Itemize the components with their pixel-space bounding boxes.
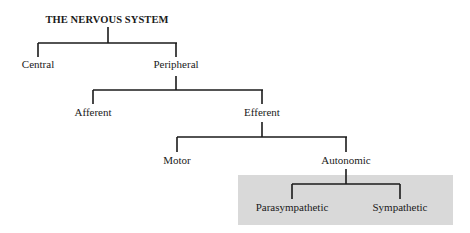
node-autonomic: Autonomic bbox=[321, 154, 371, 166]
node-efferent: Efferent bbox=[244, 106, 280, 118]
node-motor: Motor bbox=[163, 154, 191, 166]
node-parasympathetic: Parasympathetic bbox=[256, 201, 329, 213]
tree-connectors bbox=[0, 0, 470, 233]
node-central: Central bbox=[22, 58, 54, 70]
node-root: THE NERVOUS SYSTEM bbox=[45, 14, 168, 26]
node-afferent: Afferent bbox=[74, 106, 111, 118]
node-sympathetic: Sympathetic bbox=[373, 201, 428, 213]
node-peripheral: Peripheral bbox=[153, 58, 198, 70]
